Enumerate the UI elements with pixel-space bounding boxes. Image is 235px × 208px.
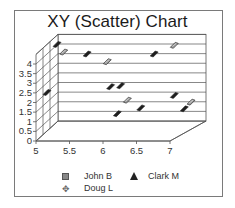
- svg-text:6.5: 6.5: [130, 145, 143, 156]
- svg-text:3: 3: [27, 77, 32, 88]
- triangle-marker-icon: [130, 172, 138, 180]
- svg-text:3.5: 3.5: [19, 68, 32, 79]
- svg-text:7: 7: [167, 145, 172, 156]
- cross-marker-icon: ✥: [62, 184, 70, 194]
- svg-text:0: 0: [27, 135, 32, 146]
- svg-text:5: 5: [33, 145, 38, 156]
- svg-text:2.5: 2.5: [19, 87, 32, 98]
- svg-text:4: 4: [27, 58, 32, 69]
- legend-item-doug-l: Doug L: [84, 183, 113, 193]
- svg-text:6: 6: [100, 145, 105, 156]
- svg-text:5.5: 5.5: [63, 145, 76, 156]
- svg-text:1: 1: [27, 116, 32, 127]
- legend-item-john-b: John B: [84, 171, 112, 181]
- svg-text:2: 2: [27, 97, 32, 108]
- svg-text:1.5: 1.5: [19, 106, 32, 117]
- plot-area: 00.511.522.533.5455.566.57: [0, 0, 235, 208]
- square-marker-icon: [62, 173, 69, 180]
- svg-text:0.5: 0.5: [19, 125, 32, 136]
- legend-item-clark-m: Clark M: [148, 171, 179, 181]
